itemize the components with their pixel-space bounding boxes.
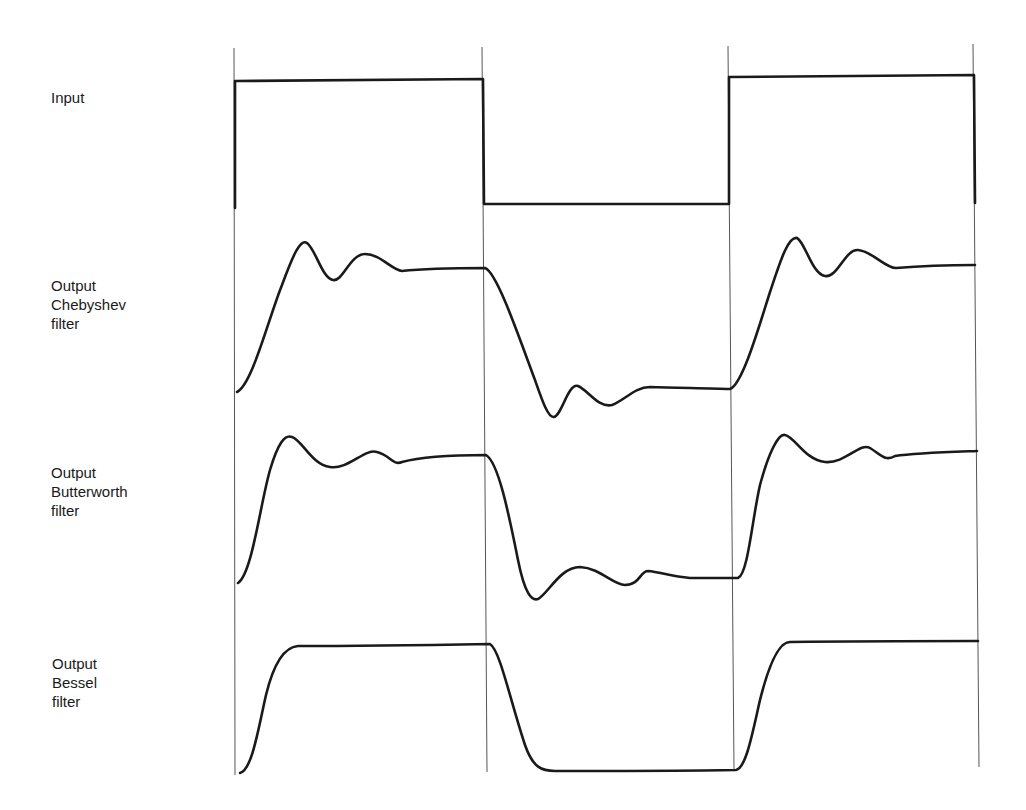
chebyshev-output-wave (237, 238, 975, 417)
butterworth-output-wave (238, 435, 977, 599)
bessel-output-wave (240, 641, 978, 773)
waveform-diagram (0, 0, 1026, 810)
input-square-wave (235, 75, 975, 208)
